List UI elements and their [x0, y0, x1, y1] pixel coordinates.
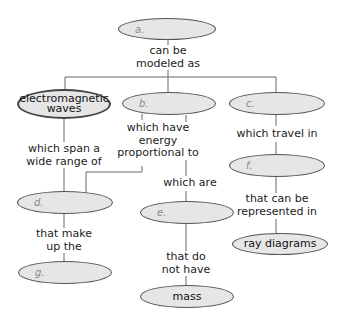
- link-which-span: which span a wide range of: [18, 143, 110, 168]
- node-mass-label: mass: [173, 292, 202, 302]
- concept-node-ray-diagrams[interactable]: ray diagrams: [232, 233, 328, 255]
- node-d-label: d.: [18, 197, 44, 208]
- concept-node-e[interactable]: e.: [140, 201, 234, 224]
- concept-node-mass[interactable]: mass: [140, 285, 234, 308]
- concept-node-b[interactable]: b.: [122, 92, 216, 115]
- node-g-label: g.: [19, 267, 45, 278]
- concept-node-g[interactable]: g.: [18, 261, 112, 284]
- concept-node-f[interactable]: f.: [229, 154, 325, 177]
- link-which-are: which are: [160, 177, 220, 190]
- link-which-travel-in: which travel in: [231, 128, 323, 141]
- concept-node-c[interactable]: c.: [229, 92, 325, 115]
- concept-node-a[interactable]: a.: [118, 18, 216, 40]
- link-which-have-energy: which have energy proportional to: [102, 122, 214, 160]
- node-f-label: f.: [230, 160, 253, 171]
- concept-node-electromagnetic-waves[interactable]: electromagnetic waves: [17, 89, 111, 119]
- node-b-label: b.: [123, 98, 149, 109]
- concept-node-d[interactable]: d.: [17, 191, 113, 214]
- node-e-label: e.: [141, 207, 166, 218]
- node-c-label: c.: [230, 98, 255, 109]
- link-that-can-be-represented: that can be represented in: [232, 193, 322, 218]
- link-that-make-up: that make up the: [26, 228, 102, 253]
- node-em-line2: waves: [47, 104, 82, 114]
- node-a-label: a.: [119, 24, 144, 35]
- link-can-be-modeled-as: can be modeled as: [128, 45, 208, 70]
- link-that-do-not-have: that do not have: [156, 251, 216, 276]
- node-ray-diagrams-label: ray diagrams: [244, 239, 317, 249]
